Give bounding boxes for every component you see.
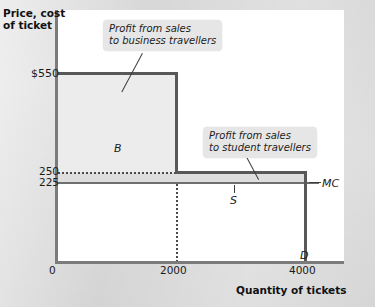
region-s-leader-line (234, 185, 235, 193)
demand-curve-segment-250 (175, 171, 307, 174)
curve-label-mc: MC (322, 177, 339, 190)
y-axis-title-line1: Price, cost (3, 8, 65, 20)
callout-student-line1: Profit from sales (209, 130, 311, 142)
chart-figure: $550 250 225 0 2000 4000 Price, cost of … (0, 0, 375, 307)
region-label-b: B (114, 142, 122, 155)
demand-curve-segment-550 (57, 72, 178, 75)
shaded-region-business-profit (57, 74, 177, 173)
demand-curve-drop-at-2000 (175, 72, 178, 174)
curve-label-d: D (300, 249, 308, 262)
mc-leader-line (309, 182, 321, 183)
callout-student-travellers: Profit from sales to student travellers (203, 127, 317, 158)
y-tick-label-550: $550 (31, 68, 59, 79)
callout-business-line1: Profit from sales (109, 23, 216, 35)
dotted-guide-horizontal-250 (57, 172, 177, 174)
x-tick-label-4000: 4000 (289, 265, 316, 276)
x-axis-title: Quantity of tickets (236, 285, 346, 297)
y-axis-title: Price, cost of ticket (3, 8, 65, 31)
callout-business-line2: to business travellers (109, 35, 216, 47)
dotted-guide-vertical-2000 (176, 183, 178, 262)
marginal-cost-line (57, 182, 319, 184)
callout-student-line2: to student travellers (209, 142, 311, 154)
y-axis-line (55, 10, 58, 264)
y-tick-label-225: 225 (39, 177, 59, 188)
region-label-s: S (230, 194, 237, 207)
y-axis-title-line2: of ticket (3, 20, 65, 32)
x-tick-label-0: 0 (49, 265, 56, 276)
x-tick-label-2000: 2000 (160, 265, 187, 276)
callout-business-travellers: Profit from sales to business travellers (103, 20, 222, 51)
